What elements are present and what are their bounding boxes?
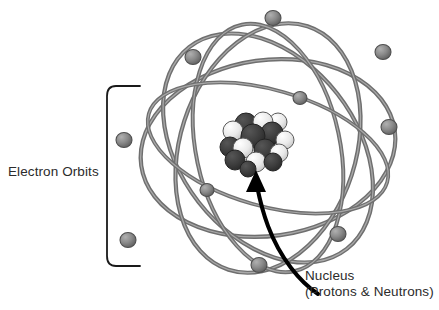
- nucleus-label-line2: (Protons & Neutrons): [305, 284, 434, 300]
- electron-lower-left: [120, 233, 136, 248]
- electron-inner-left: [200, 184, 214, 197]
- nucleus-particle-proton: [264, 153, 282, 171]
- electron-upper-left: [185, 50, 201, 65]
- nucleus-cluster: [220, 112, 294, 177]
- electron-right: [381, 120, 397, 135]
- atom-diagram: Electron Orbits Nucleus (Protons & Neutr…: [0, 0, 439, 310]
- electron-bottom: [251, 258, 267, 273]
- nucleus-label-line1: Nucleus: [305, 268, 354, 283]
- nucleus-particle-proton: [240, 161, 256, 177]
- nucleus-label: Nucleus (Protons & Neutrons): [305, 268, 434, 300]
- electron-top: [265, 11, 281, 26]
- electron-mid-right: [293, 92, 307, 105]
- electron-lower-right: [330, 227, 346, 242]
- electron-orbits-label: Electron Orbits: [8, 164, 99, 180]
- electron-left: [116, 133, 132, 148]
- atom-diagram-canvas: [0, 0, 439, 310]
- electron-upper-right: [375, 45, 391, 60]
